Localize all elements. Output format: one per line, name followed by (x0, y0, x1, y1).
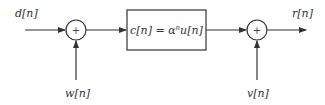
output-label-r: r[n] (292, 7, 314, 20)
plus-icon: + (253, 25, 261, 36)
summing-junction-2: + (247, 20, 267, 40)
block-diagram: d[n] + w[n] c[n] = αnu[n] + v[n] r[n] (0, 0, 325, 105)
input-label-v: v[n] (247, 87, 270, 100)
impulse-response-label: c[n] = αnu[n] (130, 24, 203, 37)
input-label-d: d[n] (15, 7, 38, 20)
summing-junction-1: + (66, 20, 86, 40)
system-block: c[n] = αnu[n] (127, 10, 206, 50)
plus-icon: + (72, 25, 80, 36)
input-label-w: w[n] (65, 87, 91, 100)
